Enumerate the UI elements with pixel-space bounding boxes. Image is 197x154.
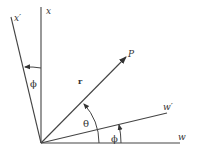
rotation-diagram: x x′ w w′ P r θ ϕ ϕ bbox=[0, 0, 197, 154]
phi-bottom-label: ϕ bbox=[111, 133, 118, 144]
phi-bottom-arc bbox=[119, 125, 121, 143]
w-prime-label: w′ bbox=[163, 102, 173, 112]
theta-label: θ bbox=[83, 118, 89, 129]
w-label: w bbox=[178, 132, 186, 142]
r-label: r bbox=[78, 76, 83, 86]
r-vector bbox=[41, 57, 126, 143]
p-label: P bbox=[127, 49, 135, 59]
w-prime-axis bbox=[41, 113, 167, 143]
phi-top-label: ϕ bbox=[30, 78, 37, 89]
diagram-canvas: x x′ w w′ P r θ ϕ ϕ bbox=[0, 0, 197, 154]
phi-top-arc bbox=[25, 67, 41, 68]
x-label: x bbox=[46, 6, 51, 16]
x-prime-label: x′ bbox=[14, 13, 21, 23]
